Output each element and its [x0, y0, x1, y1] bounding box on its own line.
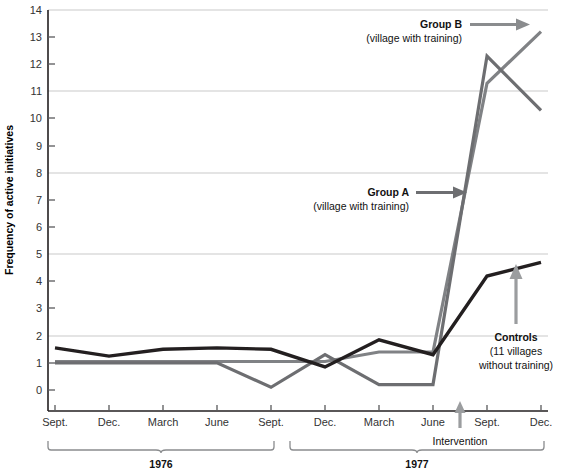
y-tick-label-1: 1 — [36, 357, 42, 369]
x-tick-label-3: June — [205, 416, 229, 428]
y-tick-label-2: 2 — [36, 330, 42, 342]
x-tick-label-8: Sept. — [474, 416, 500, 428]
group-b-arrow-icon — [470, 19, 530, 31]
group-b-label: Group B — [420, 18, 462, 30]
y-tick-label-4: 4 — [36, 275, 42, 287]
line-chart-svg: 14 13 12 11 10 9 8 7 6 5 4 3 2 1 0 Frequ… — [0, 0, 561, 475]
controls-sublabel-2: without training) — [478, 359, 553, 371]
controls-sublabel-1: (11 villages — [490, 345, 542, 357]
x-tick-label-9: Dec. — [530, 416, 553, 428]
year-label-1976: 1976 — [149, 458, 173, 470]
series-line-group-a — [55, 56, 541, 387]
group-a-sublabel: (village with training) — [313, 200, 409, 212]
year-brace-1976: 1976 — [48, 441, 274, 470]
chart-container: 14 13 12 11 10 9 8 7 6 5 4 3 2 1 0 Frequ… — [0, 0, 561, 475]
annotation-group-b: Group B (village with training) — [366, 18, 530, 44]
x-tick-label-0: Sept. — [42, 416, 68, 428]
x-axis: Sept. Dec. March June Sept. Dec. March J… — [42, 405, 552, 428]
annotation-group-a: Group A (village with training) — [313, 186, 467, 212]
y-tick-label-6: 6 — [36, 221, 42, 233]
x-tick-label-1: Dec. — [98, 416, 121, 428]
gridlines — [48, 10, 548, 336]
series-line-group-b — [55, 32, 541, 362]
y-tick-label-8: 8 — [36, 167, 42, 179]
group-a-arrow-icon — [416, 187, 467, 199]
y-tick-label-7: 7 — [36, 194, 42, 206]
x-tick-label-4: Sept. — [258, 416, 284, 428]
intervention-arrow-icon — [455, 401, 466, 428]
x-tick-label-7: June — [421, 416, 445, 428]
controls-arrow-icon — [510, 264, 523, 324]
y-tick-label-5: 5 — [36, 248, 42, 260]
controls-label: Controls — [494, 331, 537, 343]
y-tick-label-10: 10 — [30, 112, 42, 124]
y-tick-label-13: 13 — [30, 31, 42, 43]
y-tick-label-0: 0 — [36, 384, 42, 396]
series-line-controls — [55, 262, 541, 367]
y-tick-label-9: 9 — [36, 140, 42, 152]
group-a-label: Group A — [367, 186, 409, 198]
year-brace-1977: 1977 — [290, 441, 544, 470]
x-tick-label-2: March — [148, 416, 179, 428]
year-label-1977: 1977 — [405, 458, 429, 470]
y-tick-label-14: 14 — [30, 4, 42, 16]
y-axis-title: Frequency of active initiatives — [3, 125, 15, 275]
y-axis: 14 13 12 11 10 9 8 7 6 5 4 3 2 1 0 Frequ… — [3, 4, 55, 411]
y-tick-label-12: 12 — [30, 58, 42, 70]
x-tick-label-6: March — [364, 416, 395, 428]
annotation-controls: Controls (11 villages without training) — [478, 264, 553, 371]
group-b-sublabel: (village with training) — [366, 32, 462, 44]
intervention-label: Intervention — [433, 435, 488, 447]
x-tick-label-5: Dec. — [314, 416, 337, 428]
y-tick-label-11: 11 — [31, 85, 42, 97]
y-tick-label-3: 3 — [36, 302, 42, 314]
